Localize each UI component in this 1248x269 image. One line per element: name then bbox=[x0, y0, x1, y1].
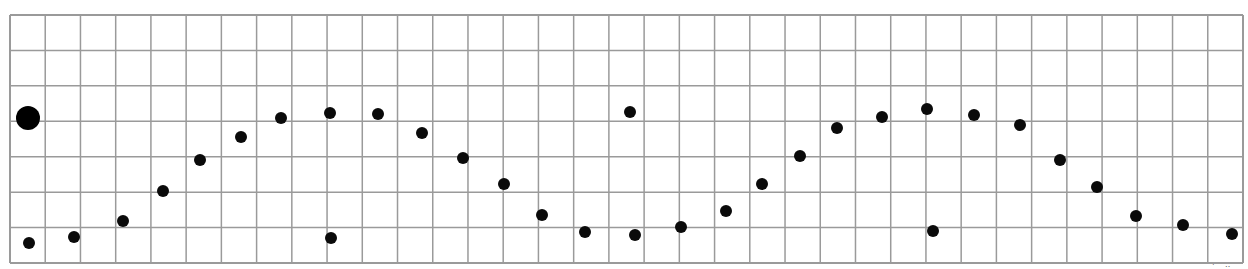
dot bbox=[498, 178, 510, 190]
start-marker-dot bbox=[16, 106, 40, 130]
dot bbox=[68, 231, 80, 243]
dot bbox=[720, 205, 732, 217]
dot bbox=[579, 226, 591, 238]
dot bbox=[1091, 181, 1103, 193]
corner-mark: · ‥ bbox=[1212, 260, 1234, 269]
dot bbox=[831, 122, 843, 134]
dot bbox=[275, 112, 287, 124]
dot bbox=[325, 232, 337, 244]
dot bbox=[23, 237, 35, 249]
dot bbox=[372, 108, 384, 120]
dot bbox=[1014, 119, 1026, 131]
dot bbox=[235, 131, 247, 143]
dot bbox=[1177, 219, 1189, 231]
dot bbox=[921, 103, 933, 115]
dot bbox=[624, 106, 636, 118]
dot bbox=[794, 150, 806, 162]
dot bbox=[1226, 228, 1238, 240]
dot-grid-sheet: · ‥ bbox=[0, 0, 1248, 269]
dot bbox=[324, 107, 336, 119]
dot bbox=[194, 154, 206, 166]
dot bbox=[457, 152, 469, 164]
dot bbox=[536, 209, 548, 221]
dot bbox=[416, 127, 428, 139]
dot bbox=[157, 185, 169, 197]
dot bbox=[117, 215, 129, 227]
dot bbox=[1054, 154, 1066, 166]
grid-lines bbox=[10, 15, 1243, 263]
grid-canvas bbox=[0, 0, 1248, 269]
dot bbox=[968, 109, 980, 121]
dot bbox=[1130, 210, 1142, 222]
dot bbox=[629, 229, 641, 241]
dot bbox=[756, 178, 768, 190]
dot bbox=[876, 111, 888, 123]
dot bbox=[675, 221, 687, 233]
dot bbox=[927, 225, 939, 237]
